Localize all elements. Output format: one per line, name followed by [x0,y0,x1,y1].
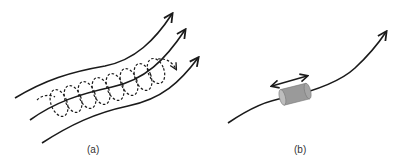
field-line-middle [30,30,185,120]
panel-a-label: (a) [87,144,99,155]
panel-a [15,14,198,143]
panel-b [228,32,386,123]
panel-b-label: (b) [294,144,306,155]
field-line-b [228,32,386,123]
field-line-top [15,14,172,98]
cylinder-icon [278,83,313,106]
diagram-canvas [0,0,401,164]
